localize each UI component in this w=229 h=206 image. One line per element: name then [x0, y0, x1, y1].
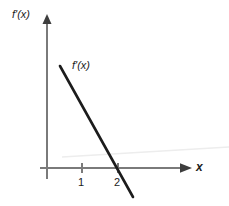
y-axis-arrowhead-icon [43, 14, 52, 24]
scan-artifact-line [62, 147, 229, 157]
x-axis-label: x [196, 161, 203, 173]
curve-label: f'(x) [72, 60, 90, 71]
derivative-line [60, 66, 133, 197]
x-tick-label-2: 2 [114, 177, 120, 188]
x-axis-arrowhead-icon [180, 163, 192, 173]
derivative-graph-figure: f'(x) x f'(x) 1 2 [0, 0, 229, 206]
x-tick-label-1: 1 [78, 177, 84, 188]
y-axis-label: f'(x) [12, 9, 30, 20]
